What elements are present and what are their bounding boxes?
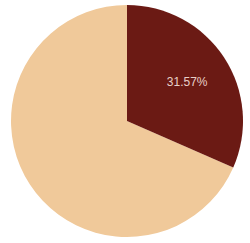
slice-value-label: 31.57% bbox=[167, 75, 208, 89]
pie-chart: 31.57% bbox=[0, 0, 250, 243]
